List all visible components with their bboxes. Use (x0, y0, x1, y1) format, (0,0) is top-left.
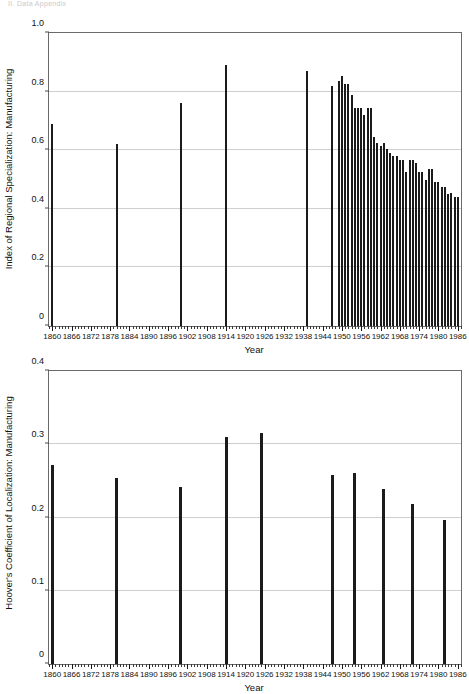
x-tick-minor (261, 664, 262, 667)
x-tick-major (303, 664, 304, 669)
x-tick-minor (200, 664, 201, 667)
x-tick-minor (65, 326, 66, 329)
x-tick-label: 1860 (43, 670, 61, 679)
bar (331, 475, 334, 664)
bar (399, 160, 401, 326)
x-tick-minor (455, 664, 456, 667)
x-tick-minor (78, 326, 79, 329)
x-tick-minor (104, 664, 105, 667)
y-tick-label: 0 (39, 649, 44, 659)
x-tick-minor (435, 326, 436, 329)
y-axis-title: Index of Regional Specialization: Manufa… (2, 19, 16, 319)
x-tick-minor (387, 326, 388, 329)
x-tick-minor (355, 326, 356, 329)
x-tick-minor (133, 664, 134, 667)
x-tick-minor (445, 664, 446, 667)
x-tick-minor (406, 326, 407, 329)
x-tick-minor (101, 326, 102, 329)
x-tick-minor (55, 326, 56, 329)
x-tick-minor (319, 664, 320, 667)
x-tick-minor (278, 664, 279, 667)
x-tick-label: 1980 (430, 332, 448, 341)
x-tick-major (342, 664, 343, 669)
x-tick-minor (397, 664, 398, 667)
x-tick-minor (358, 664, 359, 667)
x-tick-minor (113, 664, 114, 667)
x-tick-label: 1962 (372, 670, 390, 679)
x-tick-label: 1944 (314, 332, 332, 341)
x-tick-minor (268, 326, 269, 329)
x-tick-minor (393, 664, 394, 667)
x-tick-minor (242, 326, 243, 329)
bar (116, 144, 118, 326)
bar (428, 169, 430, 326)
x-tick-label: 1920 (236, 670, 254, 679)
x-tick-major (323, 326, 324, 331)
x-tick-label: 1866 (63, 332, 81, 341)
x-tick-minor (78, 664, 79, 667)
x-tick-major (400, 664, 401, 669)
x-tick-label: 1926 (256, 332, 274, 341)
bar (450, 193, 452, 326)
x-tick-label: 1986 (449, 332, 467, 341)
x-tick-minor (332, 664, 333, 667)
x-tick-label: 1914 (217, 332, 235, 341)
bar (409, 160, 411, 326)
x-tick-minor (191, 664, 192, 667)
x-tick-minor (326, 326, 327, 329)
bar (357, 108, 359, 326)
plot-area-bottom: 00.10.20.30.4 18601866187218781884189018… (48, 370, 462, 665)
x-tick-minor (213, 326, 214, 329)
x-tick-minor (223, 326, 224, 329)
x-tick-minor (422, 326, 423, 329)
bar (437, 182, 439, 326)
x-tick-minor (426, 664, 427, 667)
x-tick-minor (451, 664, 452, 667)
x-tick-label: 1932 (275, 332, 293, 341)
y-tick-mark (45, 90, 49, 91)
x-tick-minor (316, 326, 317, 329)
x-tick-label: 1974 (410, 332, 428, 341)
y-tick-label: 0.2 (31, 252, 44, 262)
x-tick-minor (142, 664, 143, 667)
x-tick-minor (68, 326, 69, 329)
x-tick-major (168, 664, 169, 669)
bar (454, 197, 456, 326)
bar (386, 149, 388, 326)
x-tick-minor (171, 326, 172, 329)
bar (370, 108, 372, 326)
bar (389, 153, 391, 326)
x-tick-major (381, 664, 382, 669)
bar (363, 115, 365, 326)
x-tick-minor (139, 664, 140, 667)
bar (347, 84, 349, 326)
x-tick-minor (239, 664, 240, 667)
plot-area-top: 00.20.40.60.81.0 18601866187218781884189… (48, 32, 462, 327)
bar (444, 187, 446, 326)
x-tick-minor (155, 326, 156, 329)
x-tick-minor (62, 326, 63, 329)
x-tick-minor (84, 326, 85, 329)
x-tick-minor (133, 326, 134, 329)
x-tick-label: 1920 (236, 332, 254, 341)
bar (331, 86, 333, 326)
x-tick-minor (316, 664, 317, 667)
x-tick-label: 1956 (352, 670, 370, 679)
x-tick-label: 1872 (82, 670, 100, 679)
x-tick-minor (326, 664, 327, 667)
x-tick-minor (210, 664, 211, 667)
x-tick-major (129, 326, 130, 331)
x-tick-minor (216, 326, 217, 329)
x-tick-minor (268, 664, 269, 667)
x-tick-major (458, 326, 459, 331)
x-tick-label: 1890 (140, 670, 158, 679)
x-tick-major (91, 326, 92, 331)
x-tick-minor (374, 326, 375, 329)
y-tick-label: 0.2 (31, 503, 44, 513)
x-tick-minor (136, 326, 137, 329)
y-tick-label: 0.8 (31, 77, 44, 87)
x-tick-minor (216, 664, 217, 667)
x-tick-minor (88, 326, 89, 329)
y-tick-mark (45, 32, 49, 33)
x-tick-label: 1962 (372, 332, 390, 341)
